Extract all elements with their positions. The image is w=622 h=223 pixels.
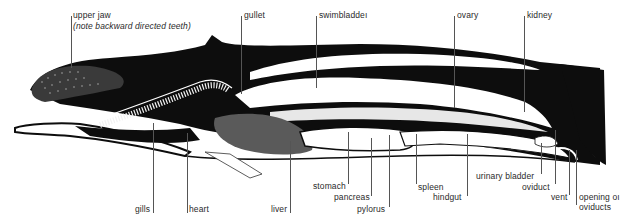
leader-line-opening-of-oviducts xyxy=(576,150,577,205)
label-opening-of-oviducts-line2: oviducts xyxy=(579,202,611,212)
leader-line-spleen xyxy=(416,134,417,184)
leader-line-stomach xyxy=(348,132,349,184)
label-pylorus: pylorus xyxy=(357,204,385,214)
label-vent: vent xyxy=(551,192,567,202)
leader-line-vent xyxy=(569,150,570,195)
leader-line-ovary xyxy=(454,16,455,108)
label-oviduct: oviduct xyxy=(522,182,550,192)
ventral-outline xyxy=(185,155,575,162)
label-ovary: ovary xyxy=(457,10,478,20)
label-spleen: spleen xyxy=(418,182,444,192)
label-opening-of-oviducts-line1: opening oı xyxy=(579,192,620,202)
label-urinary-bladder: urinary bladder xyxy=(476,171,534,181)
lower-jaw-dark xyxy=(75,126,200,143)
leader-line-oviduct xyxy=(555,130,556,184)
leader-line-swimbladder xyxy=(316,16,317,88)
label-swimbladder: swimbladdeı xyxy=(319,10,367,20)
label-heart: heart xyxy=(189,204,209,214)
leader-line-liver xyxy=(290,141,291,213)
label-liver: liver xyxy=(271,204,287,214)
label-upper-jaw: upper jaw xyxy=(73,10,111,20)
stomach-shape xyxy=(300,127,415,151)
leader-line-heart xyxy=(187,133,188,213)
label-gills: gills xyxy=(135,204,150,214)
leader-line-gullet xyxy=(241,16,242,94)
leader-line-hindgut xyxy=(467,134,468,196)
leader-line-gills xyxy=(153,123,154,213)
leader-line-urinary-bladder xyxy=(541,143,542,174)
leader-line-pancreas xyxy=(371,138,372,196)
leader-line-kidney xyxy=(524,16,525,112)
leader-line-upper-jaw xyxy=(71,16,72,68)
label-gullet: gullet xyxy=(244,10,265,20)
label-pancreas: pancreas xyxy=(334,192,370,202)
label-stomach: stomach xyxy=(313,181,346,191)
label-upper-jaw-note: (note backward directed teeth) xyxy=(73,21,191,31)
pelvic-fin xyxy=(205,152,262,178)
label-hindgut: hindgut xyxy=(433,192,462,202)
label-kidney: kidney xyxy=(527,10,552,20)
leader-line-pylorus xyxy=(389,135,390,207)
